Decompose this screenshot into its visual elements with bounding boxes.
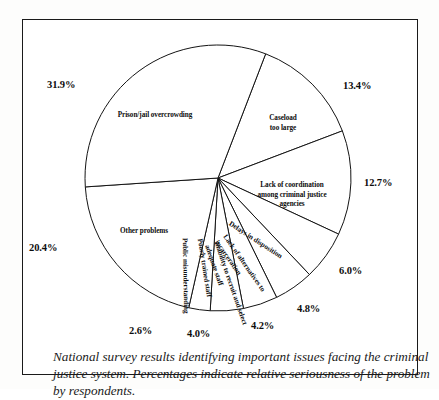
figure-frame: 13.4% 12.7% 6.0% 4.8% 4.2% 4.0% 2.6% 20.…: [22, 19, 418, 375]
pct-label-lack-of-coordination: 12.7%: [364, 177, 392, 188]
wedge-label-line: agencies: [229, 200, 355, 210]
pct-label-caseload-too-large: 13.4%: [343, 80, 371, 91]
pct-label-other-problems: 20.4%: [29, 242, 57, 253]
wedge-label-other-problems: Other problems: [89, 227, 199, 237]
wedge-label-line: Caseload: [239, 114, 327, 124]
pct-label-lack-of-alternatives: 4.8%: [297, 303, 320, 314]
wedge-label-caseload-too-large: Caseload too large: [239, 114, 327, 133]
pct-label-poorly-trained-staff: 4.0%: [187, 328, 210, 339]
wedge-label-line: among criminal justice: [229, 191, 355, 201]
pct-label-inability-to-recruit: 4.2%: [251, 320, 274, 331]
pie-chart: 13.4% 12.7% 6.0% 4.8% 4.2% 4.0% 2.6% 20.…: [23, 20, 419, 320]
pct-label-prison-jail-overcrowding: 31.9%: [47, 79, 75, 90]
pct-label-public-misunderstanding: 2.6%: [129, 325, 152, 336]
wedge-label-prison-jail-overcrowding: Prison/jail overcrowding: [85, 111, 225, 121]
wedge-label-line: Public misunderstanding: [181, 238, 190, 314]
wedge-label-lack-of-coordination: Lack of coordination among criminal just…: [229, 181, 355, 210]
wedge-label-line: too large: [239, 124, 327, 134]
wedge-label-line: Other problems: [89, 227, 199, 237]
wedge-label-public-misunderstanding: Public misunderstanding: [179, 238, 190, 314]
figure-caption: National survey results identifying impo…: [53, 349, 439, 400]
wedge-label-line: Lack of coordination: [229, 181, 355, 191]
wedge-label-line: Prison/jail overcrowding: [85, 111, 225, 121]
pct-label-delays-in-disposition: 6.0%: [339, 265, 362, 276]
